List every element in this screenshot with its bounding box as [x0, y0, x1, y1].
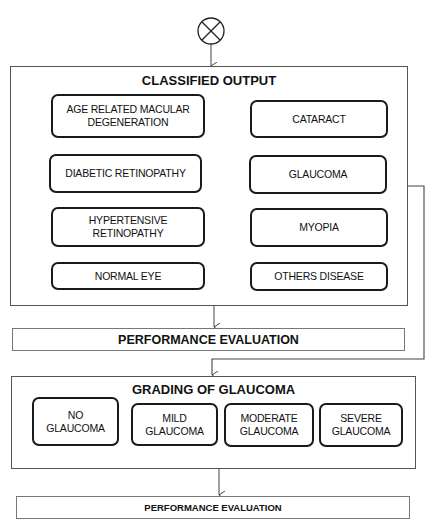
- class-myopia[interactable]: MYOPIA: [250, 208, 388, 247]
- class-label: MYOPIA: [299, 221, 339, 234]
- summing-junction-icon: [198, 18, 224, 44]
- class-diabetic-retinopathy[interactable]: DIABETIC RETINOPATHY: [49, 154, 202, 193]
- class-glaucoma[interactable]: GLAUCOMA: [249, 155, 387, 194]
- class-label: OTHERS DISEASE: [274, 270, 363, 283]
- class-amd[interactable]: AGE RELATED MACULAR DEGENERATION: [51, 94, 205, 138]
- class-label: DIABETIC RETINOPATHY: [65, 167, 185, 180]
- grade-severe-glaucoma[interactable]: SEVERE GLAUCOMA: [319, 403, 403, 447]
- grade-label: MODERATE GLAUCOMA: [240, 412, 299, 438]
- class-label: CATARACT: [292, 113, 345, 126]
- class-label: GLAUCOMA: [289, 168, 348, 181]
- performance-evaluation-2[interactable]: PERFORMANCE EVALUATION: [16, 496, 410, 519]
- class-others-disease[interactable]: OTHERS DISEASE: [250, 262, 388, 291]
- grade-mild-glaucoma[interactable]: MILD GLAUCOMA: [131, 403, 218, 446]
- class-normal-eye[interactable]: NORMAL EYE: [51, 262, 205, 290]
- performance-evaluation-1[interactable]: PERFORMANCE EVALUATION: [12, 328, 405, 351]
- grade-label: SEVERE GLAUCOMA: [332, 412, 391, 438]
- eval-label: PERFORMANCE EVALUATION: [144, 502, 281, 513]
- grade-no-glaucoma[interactable]: NO GLAUCOMA: [32, 397, 119, 446]
- classified-output-title: CLASSIFIED OUTPUT: [10, 73, 408, 88]
- class-label: HYPERTENSIVE RETINOPATHY: [89, 214, 168, 240]
- class-cataract[interactable]: CATARACT: [250, 100, 388, 138]
- grade-moderate-glaucoma[interactable]: MODERATE GLAUCOMA: [224, 403, 314, 447]
- grade-label: MILD GLAUCOMA: [145, 412, 204, 438]
- class-label: NORMAL EYE: [95, 270, 161, 283]
- grading-title: GRADING OF GLAUCOMA: [11, 382, 416, 397]
- grade-label: NO GLAUCOMA: [46, 409, 105, 435]
- class-hypertensive-retinopathy[interactable]: HYPERTENSIVE RETINOPATHY: [51, 207, 205, 247]
- eval-label: PERFORMANCE EVALUATION: [118, 333, 299, 347]
- class-label: AGE RELATED MACULAR DEGENERATION: [66, 103, 189, 129]
